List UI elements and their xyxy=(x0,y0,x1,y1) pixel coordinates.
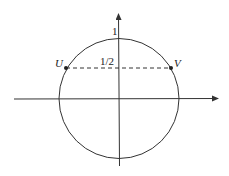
point-v xyxy=(169,66,173,70)
point-u xyxy=(64,66,68,70)
unit-circle-diagram: 1 1/2 U V xyxy=(0,0,229,176)
x-axis xyxy=(14,99,218,100)
y-axis xyxy=(119,14,120,166)
label-one: 1 xyxy=(112,25,118,37)
label-u: U xyxy=(55,57,64,69)
label-half: 1/2 xyxy=(100,55,114,67)
label-v: V xyxy=(174,57,182,69)
